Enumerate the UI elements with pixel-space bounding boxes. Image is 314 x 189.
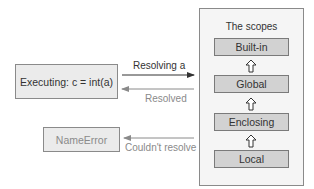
up-arrow-icon <box>244 134 258 148</box>
scope-label: Built-in <box>235 41 267 53</box>
up-arrow-icon <box>244 97 258 111</box>
scope-label: Local <box>239 153 264 165</box>
name-error-label: NameError <box>56 134 107 146</box>
scope-enclosing: Enclosing <box>214 113 289 131</box>
scope-built-in: Built-in <box>214 38 289 56</box>
name-error-box: NameError <box>43 127 120 152</box>
scopes-panel: The scopes Built-in Global Enclosing Loc… <box>199 8 304 186</box>
resolved-label: Resolved <box>145 93 187 104</box>
scope-label: Enclosing <box>229 116 275 128</box>
scope-global: Global <box>214 75 289 93</box>
executing-label: Executing: c = int(a) <box>20 76 113 88</box>
up-arrow-icon <box>244 59 258 73</box>
scope-local: Local <box>214 150 289 168</box>
executing-box: Executing: c = int(a) <box>15 64 118 99</box>
scope-label: Global <box>236 78 266 90</box>
couldnt-resolve-label: Couldn't resolve <box>125 142 196 153</box>
scopes-title: The scopes <box>200 21 303 32</box>
resolving-label: Resolving a <box>133 60 185 71</box>
